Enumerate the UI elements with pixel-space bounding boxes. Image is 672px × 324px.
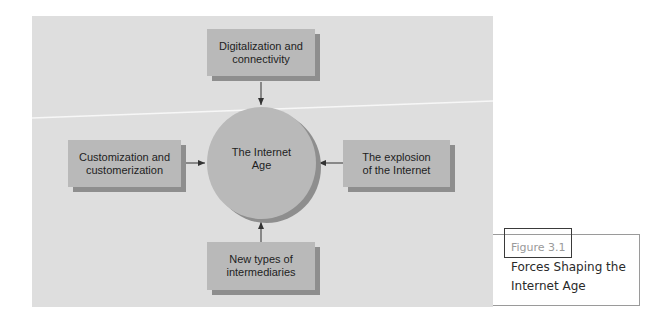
figure-number: Figure 3.1 <box>511 241 566 254</box>
force-label-top: Digitalization and connectivity <box>216 40 306 66</box>
force-box-digitalization: Digitalization and connectivity <box>207 29 315 76</box>
force-box-internet-explosion: The explosion of the Internet <box>343 140 450 187</box>
figure-title: Forces Shaping the Internet Age <box>511 258 641 296</box>
force-label-right: The explosion of the Internet <box>357 151 437 177</box>
force-box-customization: Customization and customerization <box>68 140 181 187</box>
diagram-panel: Digitalization and connectivity Customiz… <box>32 16 493 307</box>
center-node-internet-age: The Internet Age <box>207 107 316 219</box>
force-box-intermediaries: New types of intermediaries <box>207 242 315 290</box>
force-label-bottom: New types of intermediaries <box>221 253 301 279</box>
center-label: The Internet Age <box>230 146 294 172</box>
force-label-left: Customization and customerization <box>73 151 177 177</box>
